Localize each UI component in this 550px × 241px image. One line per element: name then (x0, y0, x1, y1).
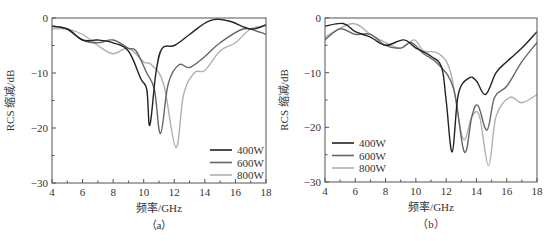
chart-panel-a: 4681012141618−30−20−100频率/GHzRCS 缩减/dB（a… (4, 12, 272, 231)
y-axis-title: RCS 缩减/dB (4, 70, 16, 131)
chart-figure: 4681012141618−30−20−100频率/GHzRCS 缩减/dB（a… (0, 0, 550, 241)
x-tick-label: 10 (138, 186, 150, 198)
x-tick-label: 6 (80, 186, 86, 198)
x-tick-label: 6 (353, 185, 359, 197)
x-tick-label: 12 (169, 186, 180, 198)
x-tick-label: 16 (501, 185, 513, 197)
x-axis-title: 频率/GHz (408, 200, 454, 213)
plot-frame (52, 18, 266, 183)
x-tick-label: 18 (532, 185, 544, 197)
panel-label: （a） (146, 219, 173, 231)
y-tick-label: −20 (304, 121, 322, 133)
x-tick-label: 4 (322, 185, 328, 197)
series-lines (52, 19, 266, 147)
legend-label: 400W (237, 144, 265, 156)
series-line-600w (325, 29, 537, 153)
legend-label: 600W (237, 157, 265, 169)
y-tick-label: −10 (31, 67, 49, 79)
y-axis-title: RCS 缩减/dB (278, 69, 290, 130)
y-tick-label: 0 (43, 12, 49, 24)
series-lines (325, 23, 537, 165)
legend-label: 800W (237, 169, 265, 181)
x-tick-label: 18 (261, 186, 273, 198)
y-tick-label: −30 (304, 176, 322, 188)
series-line-600w (52, 26, 266, 133)
x-tick-label: 16 (230, 186, 242, 198)
y-tick-label: −30 (31, 177, 49, 189)
legend-label: 800W (359, 162, 387, 174)
x-tick-label: 8 (383, 185, 389, 197)
x-tick-label: 14 (471, 185, 483, 197)
chart-panel-b: 4681012141618−30−20−100频率/GHzRCS 缩减/dB（b… (278, 12, 543, 230)
x-tick-label: 12 (441, 185, 452, 197)
legend-label: 600W (359, 150, 387, 162)
legend: 400W600W800W (210, 144, 265, 181)
y-tick-label: 0 (316, 12, 322, 24)
legend-label: 400W (359, 137, 387, 149)
x-tick-label: 14 (199, 186, 211, 198)
y-tick-label: −20 (31, 122, 49, 134)
x-tick-label: 4 (49, 186, 55, 198)
legend: 400W600W800W (332, 137, 387, 174)
y-tick-label: −10 (304, 67, 322, 79)
series-line-800w (325, 23, 537, 165)
x-tick-label: 10 (410, 185, 422, 197)
panel-label: （b） (417, 218, 445, 230)
x-axis-title: 频率/GHz (136, 201, 182, 214)
x-tick-label: 8 (110, 186, 116, 198)
